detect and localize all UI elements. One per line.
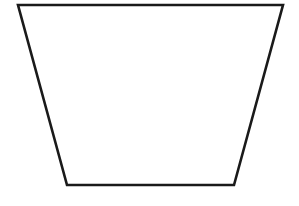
drawing-canvas <box>0 0 299 206</box>
trapezoid-figure <box>0 0 299 206</box>
